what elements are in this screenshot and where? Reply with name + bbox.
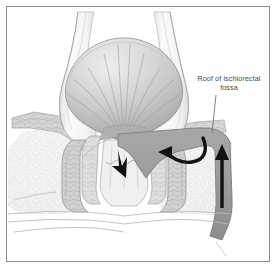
callout-line-2: fossa: [220, 83, 238, 92]
internal-sphincter-left: [82, 136, 102, 204]
anatomy-illustration: [0, 0, 278, 270]
callout-roof-of-ischiorectal-fossa: Roof of ischiorectal fossa: [190, 74, 268, 92]
figure-root: Roof of ischiorectal fossa: [0, 0, 278, 270]
callout-line-1: Roof of ischiorectal: [197, 74, 260, 83]
